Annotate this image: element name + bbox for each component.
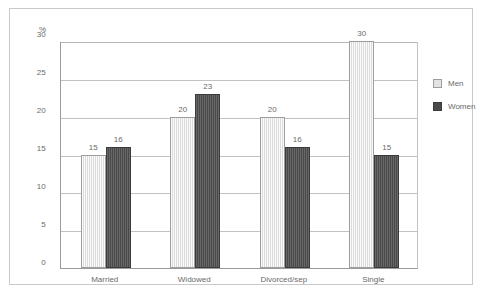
y-tick-label: 25	[37, 68, 46, 77]
bar-men-widowed	[170, 117, 195, 268]
y-tick-label: 15	[37, 144, 46, 153]
x-axis-label: Widowed	[178, 275, 211, 284]
bar-value-label: 15	[382, 143, 391, 152]
chart-page: % 30 25 20 15 10 5 0 1516202320163015 Ma…	[0, 0, 483, 304]
chart-frame: % 30 25 20 15 10 5 0 1516202320163015 Ma…	[9, 8, 473, 285]
bar-women-married	[106, 147, 131, 268]
y-tick-label: 30	[37, 30, 46, 39]
y-tick-label: 5	[41, 220, 46, 229]
plot-area: 1516202320163015	[60, 42, 418, 269]
y-tick-label: 10	[37, 182, 46, 191]
bar-value-label: 16	[114, 135, 123, 144]
x-axis-label: Married	[91, 275, 118, 284]
bar-women-widowed	[195, 94, 220, 268]
bar-value-label: 30	[357, 29, 366, 38]
y-tick-label: 0	[41, 258, 46, 267]
bar-value-label: 15	[89, 143, 98, 152]
bar-value-label: 16	[293, 135, 302, 144]
x-axis-label: Divorced/sep	[260, 275, 307, 284]
legend-swatch-women-icon	[433, 102, 442, 111]
y-tick-label: 20	[37, 106, 46, 115]
legend-item-women[interactable]: Women	[433, 102, 475, 111]
bar-men-divorced-sep	[260, 117, 285, 268]
bar-women-single	[374, 155, 399, 269]
x-axis-label: Single	[362, 275, 384, 284]
bar-value-label: 20	[268, 105, 277, 114]
legend-label-women: Women	[448, 102, 475, 111]
legend-label-men: Men	[448, 79, 464, 88]
bars-layer: 1516202320163015	[61, 42, 417, 268]
bar-women-divorced-sep	[285, 147, 310, 268]
x-axis-labels: MarriedWidowedDivorced/sepSingle	[60, 275, 418, 289]
bar-men-single	[349, 41, 374, 268]
legend-item-men[interactable]: Men	[433, 79, 475, 88]
y-axis-labels: 30 25 20 15 10 5 0	[10, 9, 54, 236]
legend-swatch-men-icon	[433, 79, 442, 88]
bar-value-label: 23	[203, 82, 212, 91]
bar-men-married	[81, 155, 106, 269]
bar-value-label: 20	[178, 105, 187, 114]
chart-legend: Men Women	[433, 79, 475, 125]
